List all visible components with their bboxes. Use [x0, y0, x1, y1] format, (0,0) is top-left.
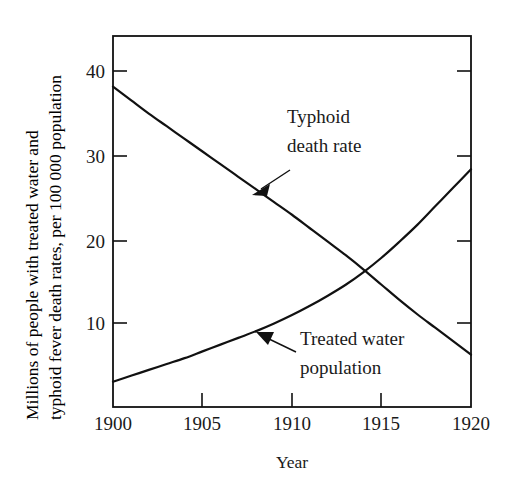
annotation-treated-water-line1: Treated water	[300, 328, 405, 349]
annotation-typhoid-arrowhead	[252, 184, 270, 196]
x-tick-label-1900: 1900	[94, 413, 132, 434]
y-axis-tick-labels: 40 30 20 10	[86, 61, 105, 334]
y-axis-title-line1: Millions of people with treated water an…	[22, 130, 42, 420]
y-axis-title: Millions of people with treated water an…	[22, 75, 65, 420]
y-tick-label-20: 20	[86, 231, 105, 252]
chart-figure: 40 30 20 10 1900 1905 1910 1915 1920 Yea…	[0, 0, 514, 492]
y-tick-label-30: 30	[86, 146, 105, 167]
y-axis-ticks-right	[457, 71, 471, 323]
annotation-treated-water-arrowhead	[256, 332, 274, 345]
x-axis-title: Year	[276, 452, 308, 472]
x-axis-tick-labels: 1900 1905 1910 1915 1920	[94, 413, 490, 434]
annotation-typhoid-line1: Typhoid	[287, 106, 351, 127]
annotation-treated-water-leader	[267, 338, 296, 352]
x-tick-label-1920: 1920	[452, 413, 490, 434]
x-tick-label-1910: 1910	[273, 413, 311, 434]
x-tick-label-1905: 1905	[183, 413, 221, 434]
y-axis-title-line2: typhoid fever death rates, per 100 000 p…	[45, 75, 65, 420]
y-tick-label-10: 10	[86, 313, 105, 334]
y-axis-ticks	[113, 71, 127, 323]
y-tick-label-40: 40	[86, 61, 105, 82]
x-axis-ticks	[202, 393, 381, 407]
annotation-typhoid-leader	[261, 170, 290, 189]
annotation-typhoid-line2: death rate	[287, 135, 361, 156]
annotation-typhoid: Typhoid death rate	[252, 106, 361, 196]
line-chart: 40 30 20 10 1900 1905 1910 1915 1920 Yea…	[0, 0, 514, 492]
x-tick-label-1915: 1915	[362, 413, 400, 434]
plot-frame	[113, 36, 471, 407]
annotation-treated-water: Treated water population	[256, 328, 405, 378]
annotation-treated-water-line2: population	[300, 357, 382, 378]
